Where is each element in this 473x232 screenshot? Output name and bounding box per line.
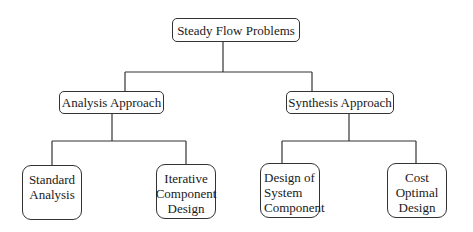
node-cost-optimal-design: Cost Optimal Design <box>387 163 447 218</box>
flow-problems-diagram: Steady Flow Problems Analysis Approach S… <box>0 0 473 232</box>
node-standard-analysis: Standard Analysis <box>22 165 82 220</box>
node-label-line: Component <box>156 186 217 201</box>
node-label-line: Iterative <box>156 171 217 186</box>
node-label-line: Design <box>156 201 217 216</box>
node-label-line: Cost <box>396 170 439 185</box>
node-label-line: Standard <box>29 172 75 187</box>
node-label: Analysis Approach <box>62 95 161 110</box>
node-iterative-component-design: Iterative Component Design <box>156 164 216 219</box>
node-synthesis-approach: Synthesis Approach <box>286 91 394 114</box>
node-label: Steady Flow Problems <box>177 23 295 38</box>
node-label-line: Optimal <box>396 185 439 200</box>
node-steady-flow-problems: Steady Flow Problems <box>172 18 300 42</box>
node-label-line: System <box>264 185 325 200</box>
node-design-of-system-component: Design of System Component <box>260 163 320 218</box>
node-label-line: Analysis <box>29 187 75 202</box>
node-label-line: Design of <box>264 170 325 185</box>
node-label-line: Design <box>396 200 439 215</box>
node-label-line: Component <box>264 200 325 215</box>
node-label: Synthesis Approach <box>288 95 392 110</box>
node-analysis-approach: Analysis Approach <box>59 91 164 114</box>
